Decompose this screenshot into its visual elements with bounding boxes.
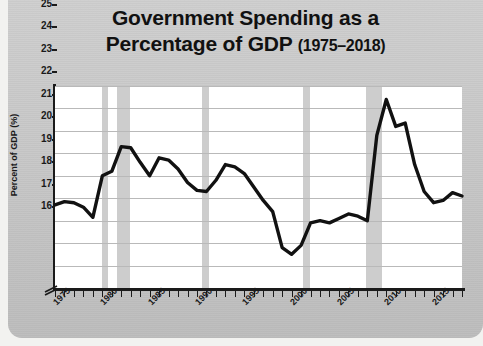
x-tick-mark — [462, 291, 463, 297]
axis-break-icon — [44, 283, 64, 297]
x-tick-mark — [273, 291, 274, 297]
y-axis-label: Percent of GDP (%) — [9, 95, 19, 215]
x-tick-mark — [93, 291, 94, 297]
x-tick-mark — [405, 291, 406, 297]
chart-title-main: Percentage of GDP — [106, 32, 292, 55]
x-tick-mark — [329, 291, 330, 297]
x-tick-mark — [282, 291, 283, 297]
x-tick-mark — [178, 291, 179, 297]
x-tick-mark — [424, 291, 425, 297]
x-tick-mark — [415, 291, 416, 297]
x-tick-mark — [140, 291, 141, 297]
x-tick-mark — [74, 291, 75, 297]
y-tick-label: 22 — [30, 66, 52, 76]
x-tick-mark — [121, 291, 122, 297]
x-tick-mark — [358, 291, 359, 297]
y-axis-ticks: 25242322212019181716 — [22, 2, 52, 212]
x-tick-mark — [311, 291, 312, 297]
chart-title-line1: Government Spending as a — [8, 5, 483, 31]
y-tick-label: 19 — [30, 134, 52, 144]
x-tick-mark — [188, 291, 189, 297]
x-tick-mark — [453, 291, 454, 297]
x-tick-mark — [216, 291, 217, 297]
y-tick-label: 21 — [30, 89, 52, 99]
x-tick-mark — [367, 291, 368, 297]
y-tick-label: 18 — [30, 156, 52, 166]
chart-title-years: (1975–2018) — [298, 37, 385, 54]
x-tick-mark — [83, 291, 84, 297]
x-tick-mark — [377, 291, 378, 297]
spending-line-series — [55, 86, 462, 288]
x-tick-mark — [235, 291, 236, 297]
chart-title-line2: Percentage of GDP (1975–2018) — [8, 31, 483, 59]
x-tick-mark — [131, 291, 132, 297]
y-tick-mark — [52, 49, 57, 51]
y-tick-label: 25 — [30, 0, 52, 9]
y-tick-mark — [52, 26, 57, 28]
y-tick-mark — [52, 71, 57, 73]
x-tick-mark — [225, 291, 226, 297]
y-tick-label: 24 — [30, 21, 52, 31]
y-tick-label: 20 — [30, 111, 52, 121]
x-tick-mark — [320, 291, 321, 297]
x-tick-mark — [263, 291, 264, 297]
chart-title-block: Government Spending as a Percentage of G… — [8, 5, 483, 59]
plot-area — [55, 86, 462, 288]
y-tick-label: 17 — [30, 179, 52, 189]
x-tick-mark — [169, 291, 170, 297]
chart-figure: Government Spending as a Percentage of G… — [0, 0, 483, 346]
y-tick-label: 23 — [30, 44, 52, 54]
y-tick-label: 16 — [30, 201, 52, 211]
series-polyline — [55, 99, 462, 254]
y-tick-mark — [52, 4, 57, 6]
